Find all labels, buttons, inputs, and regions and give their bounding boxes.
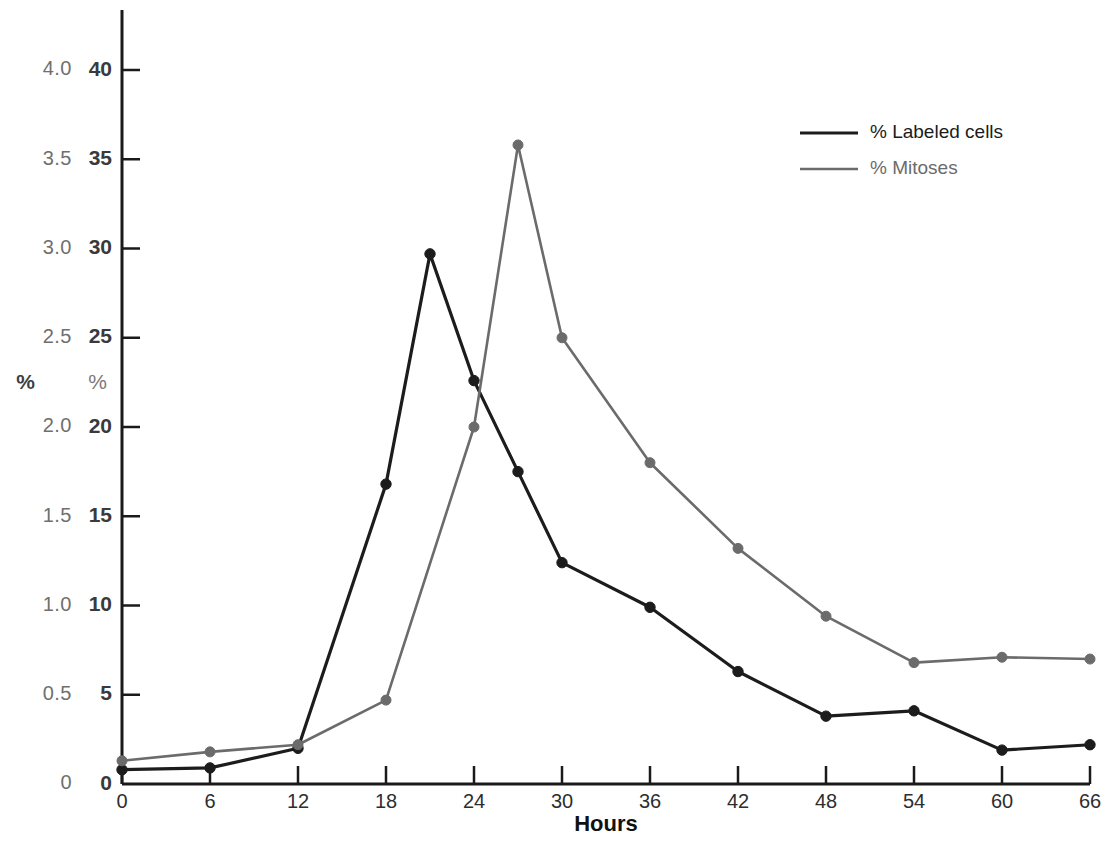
line-chart: 0510152025303540 00.51.01.52.02.53.03.54… xyxy=(0,0,1111,853)
data-point xyxy=(645,458,655,468)
x-axis-tick-label: 60 xyxy=(991,790,1013,812)
x-axis-tick-label: 24 xyxy=(463,790,485,812)
y-axis-right-tick-label: 10 xyxy=(89,592,112,615)
y-axis-left-tick-label: 0.5 xyxy=(43,682,72,704)
y-axis-left-tick-label: 3.5 xyxy=(43,147,72,169)
x-axis-tick-label: 12 xyxy=(287,790,309,812)
x-axis-tick-label: 6 xyxy=(204,790,215,812)
data-point xyxy=(909,706,919,716)
data-point xyxy=(557,557,567,567)
data-point xyxy=(469,422,479,432)
y-axis-right-tick-label: 30 xyxy=(89,235,112,258)
y-axis-right-tick-label: 25 xyxy=(89,324,113,347)
y-axis-right-tick-label: 35 xyxy=(89,146,113,169)
x-axis-tick-label: 66 xyxy=(1079,790,1101,812)
x-axis-tick-label: 54 xyxy=(903,790,925,812)
y-axis-right-tick-label: 5 xyxy=(100,681,112,704)
data-point xyxy=(381,695,391,705)
data-point xyxy=(909,658,919,668)
data-point xyxy=(645,602,655,612)
data-point xyxy=(205,747,215,757)
y-axis-right-unit-label: % xyxy=(88,370,107,393)
legend-label: % Labeled cells xyxy=(870,121,1003,142)
x-axis-tick-label: 18 xyxy=(375,790,397,812)
data-point xyxy=(293,740,303,750)
x-axis-tick-label: 30 xyxy=(551,790,573,812)
y-axis-left-tick-label: 3.0 xyxy=(43,236,72,258)
y-axis-left-tick-label: 2.5 xyxy=(43,325,72,347)
data-point xyxy=(513,140,523,150)
data-point xyxy=(733,666,743,676)
y-axis-left-tick-label: 4.0 xyxy=(43,57,72,79)
y-axis-left-tick-label: 1.0 xyxy=(43,593,72,615)
x-axis-tick-label: 42 xyxy=(727,790,749,812)
data-point xyxy=(733,543,743,553)
data-point xyxy=(425,249,435,259)
y-axis-left-tick-label: 1.5 xyxy=(43,504,72,526)
y-axis-right-tick-label: 40 xyxy=(89,57,112,80)
data-point xyxy=(821,611,831,621)
data-point xyxy=(117,756,127,766)
data-point xyxy=(997,652,1007,662)
data-point xyxy=(513,466,523,476)
y-axis-left-tick-label: 2.0 xyxy=(43,414,72,436)
data-point xyxy=(1085,654,1095,664)
y-axis-left-unit-label: % xyxy=(16,370,35,393)
x-axis-title: Hours xyxy=(574,811,638,836)
chart-figure: 0510152025303540 00.51.01.52.02.53.03.54… xyxy=(0,0,1111,853)
y-axis-left-tick-label: 0 xyxy=(60,771,72,793)
x-axis-tick-label: 0 xyxy=(116,790,127,812)
y-axis-right-tick-label: 20 xyxy=(89,414,112,437)
legend-label: % Mitoses xyxy=(870,157,958,178)
data-point xyxy=(997,745,1007,755)
data-point xyxy=(821,711,831,721)
y-axis-right-tick-label: 0 xyxy=(100,771,112,794)
data-point xyxy=(381,479,391,489)
data-point xyxy=(469,375,479,385)
y-axis-right-tick-label: 15 xyxy=(89,503,113,526)
data-point xyxy=(205,763,215,773)
x-axis-tick-label: 48 xyxy=(815,790,837,812)
x-axis-tick-label: 36 xyxy=(639,790,661,812)
data-point xyxy=(557,333,567,343)
y-axis-left-labels: 00.51.01.52.02.53.03.54.0 xyxy=(43,57,72,793)
data-point xyxy=(1085,740,1095,750)
